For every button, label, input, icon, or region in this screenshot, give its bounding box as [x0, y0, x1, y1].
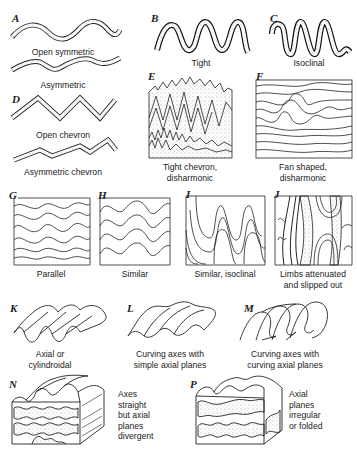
- caption-line: or folded: [289, 421, 322, 432]
- panel-label-b: B: [151, 12, 158, 24]
- caption-line: but axial: [118, 410, 153, 421]
- fold-j-limbs-attenuated: [275, 196, 352, 265]
- caption-curving-simple: Curving axes with simple axial planes: [134, 349, 207, 370]
- caption-line: Curving axes with: [134, 349, 207, 360]
- caption-asymmetric: Asymmetric: [41, 80, 86, 91]
- caption-cylindroidal: Axial or cylindroidal: [29, 349, 72, 370]
- caption-line: Axes: [118, 389, 153, 400]
- fold-a-open-symmetric: [12, 21, 120, 39]
- caption-line: Curving axes with: [247, 349, 322, 360]
- caption-similar: Similar: [122, 269, 148, 280]
- fold-p-block-irregular: [196, 376, 282, 444]
- panel-label-f: F: [256, 70, 263, 82]
- caption-line: and slipped out: [280, 280, 346, 291]
- panel-label-e: E: [148, 70, 155, 82]
- caption-limbs-attenuated: Limbs attenuated and slipped out: [280, 269, 346, 290]
- panel-label-d: D: [12, 93, 20, 105]
- caption-similar-isoclinal: Similar, isoclinal: [194, 269, 255, 280]
- caption-curving-curving: Curving axes with curving axial planes: [247, 349, 322, 370]
- caption-line: cylindroidal: [29, 360, 72, 371]
- fold-d-open-chevron: [12, 98, 115, 118]
- caption-line: planes: [289, 400, 322, 411]
- caption-line: Tight chevron,: [163, 162, 217, 173]
- caption-axes-straight-divergent: Axes straight but axial planes divergent: [118, 389, 153, 442]
- caption-line: divergent: [118, 431, 153, 442]
- caption-isoclinal: Isoclinal: [293, 58, 324, 69]
- panel-label-m: M: [244, 302, 254, 314]
- caption-line: curving axial planes: [247, 360, 322, 371]
- panel-label-c: C: [270, 12, 277, 24]
- fold-c-isoclinal: [272, 22, 350, 54]
- caption-line: planes: [118, 421, 153, 432]
- panel-label-n: N: [9, 378, 17, 390]
- panel-label-h: H: [98, 189, 107, 201]
- panel-label-p: P: [190, 378, 197, 390]
- fold-a-asymmetric: [12, 58, 120, 70]
- caption-line: Axial: [289, 389, 322, 400]
- caption-open-chevron: Open chevron: [36, 130, 90, 141]
- fold-n-block-divergent: [12, 375, 104, 444]
- caption-parallel: Parallel: [37, 269, 66, 280]
- fold-i-similar-isoclinal: [186, 196, 265, 265]
- fold-e-tight-chevron-disharmonic: [149, 77, 232, 158]
- caption-axial-planes-irregular: Axial planes irregular or folded: [289, 389, 322, 431]
- caption-tight-chevron: Tight chevron, disharmonic: [163, 162, 217, 183]
- panel-label-k: K: [10, 302, 17, 314]
- panel-label-l: L: [127, 302, 134, 314]
- caption-fan-shaped: Fan shaped, disharmonic: [279, 162, 327, 183]
- caption-line: Fan shaped,: [279, 162, 327, 173]
- caption-line: simple axial planes: [134, 360, 207, 371]
- caption-line: irregular: [289, 410, 322, 421]
- caption-tight: Tight: [192, 58, 211, 69]
- fold-f-fan-shaped-disharmonic: [256, 80, 352, 158]
- panel-label-g: G: [9, 189, 17, 201]
- fold-d-asymmetric-chevron: [14, 140, 116, 160]
- fold-h-similar: [100, 198, 170, 265]
- fold-k-cylindroidal: [14, 305, 106, 342]
- fold-l-curving-axes-simple-planes: [128, 302, 216, 337]
- caption-line: Limbs attenuated: [280, 269, 346, 280]
- fold-g-parallel: [14, 198, 90, 265]
- caption-line: disharmonic: [279, 173, 327, 184]
- caption-line: Axial or: [29, 349, 72, 360]
- panel-label-i: I: [186, 188, 190, 200]
- caption-line: disharmonic: [163, 173, 217, 184]
- fold-b-tight: [157, 22, 248, 52]
- panel-label-j: J: [274, 188, 280, 200]
- panel-label-a: A: [12, 12, 19, 24]
- caption-line: straight: [118, 400, 153, 411]
- caption-open-symmetric: Open symmetric: [32, 47, 95, 58]
- caption-asymmetric-chevron: Asymmetric chevron: [24, 167, 102, 178]
